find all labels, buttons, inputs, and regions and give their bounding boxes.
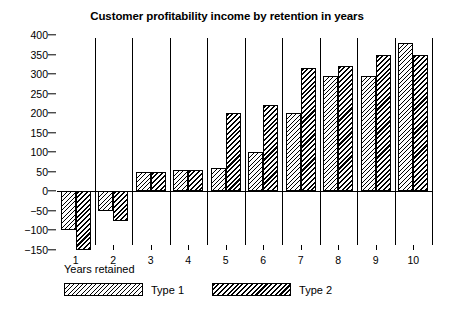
group-separator-line bbox=[282, 38, 283, 245]
group-separator-line bbox=[132, 38, 133, 245]
x-axis-tick-mark bbox=[76, 245, 77, 250]
x-axis-label-10: 10 bbox=[401, 254, 425, 266]
y-axis-tick-label: −100 bbox=[4, 225, 48, 235]
legend-item-type-1: Type 1 bbox=[64, 283, 184, 296]
y-axis-tick-mark bbox=[48, 34, 56, 35]
bar-type-2-year-8 bbox=[338, 66, 353, 191]
y-axis-tick-mark bbox=[48, 210, 56, 211]
bar-type-1-year-5 bbox=[211, 168, 226, 191]
y-axis-tick-label: 400 bbox=[4, 30, 48, 40]
y-axis-tick-mark bbox=[48, 152, 56, 153]
y-axis-tick-mark bbox=[48, 112, 56, 113]
group-separator-line bbox=[170, 38, 171, 245]
x-axis-tick-mark bbox=[188, 245, 189, 250]
y-axis-tick-mark bbox=[48, 230, 56, 231]
legend-swatch-type-2 bbox=[212, 283, 291, 296]
bar-type-1-year-9 bbox=[361, 76, 376, 191]
bar-type-1-year-8 bbox=[323, 76, 338, 191]
y-axis-tick-mark bbox=[48, 93, 56, 94]
x-axis-title: Years retained bbox=[64, 263, 135, 275]
x-axis-label-7: 7 bbox=[289, 254, 313, 266]
group-separator-line bbox=[245, 38, 246, 245]
bar-type-1-year-10 bbox=[398, 43, 413, 192]
legend-swatch-type-1 bbox=[64, 283, 143, 296]
bar-type-1-year-6 bbox=[248, 152, 263, 191]
legend-label-type-1: Type 1 bbox=[151, 284, 184, 296]
x-axis-tick-mark bbox=[376, 245, 377, 250]
x-axis-tick-mark bbox=[263, 245, 264, 250]
y-axis-tick-mark bbox=[48, 191, 56, 192]
y-axis-tick-mark bbox=[48, 132, 56, 133]
bar-type-1-year-3 bbox=[136, 172, 151, 192]
bar-type-2-year-6 bbox=[263, 105, 278, 191]
bar-type-2-year-4 bbox=[188, 170, 203, 192]
y-axis-tick-label: 350 bbox=[4, 50, 48, 60]
x-axis-label-9: 9 bbox=[364, 254, 388, 266]
x-axis-tick-mark bbox=[301, 245, 302, 250]
bar-type-1-year-7 bbox=[286, 113, 301, 191]
y-axis-tick-label: 150 bbox=[4, 128, 48, 138]
chart-legend: Type 1 Type 2 bbox=[64, 283, 332, 296]
bar-type-2-year-9 bbox=[376, 55, 391, 192]
y-axis-tick-label: 250 bbox=[4, 89, 48, 99]
bar-type-1-year-4 bbox=[173, 170, 188, 192]
bar-type-2-year-3 bbox=[151, 172, 166, 192]
y-axis-tick-label: 0 bbox=[4, 186, 48, 196]
x-axis-tick-mark bbox=[226, 245, 227, 250]
group-separator-line bbox=[95, 38, 96, 245]
x-axis-tick-mark bbox=[413, 245, 414, 250]
x-axis-label-6: 6 bbox=[251, 254, 275, 266]
bar-type-1-year-2 bbox=[98, 191, 113, 211]
bar-type-2-year-5 bbox=[226, 113, 241, 191]
legend-label-type-2: Type 2 bbox=[299, 284, 332, 296]
group-separator-line bbox=[320, 38, 321, 245]
y-axis-tick-label: 200 bbox=[4, 108, 48, 118]
y-axis-tick-label: 50 bbox=[4, 167, 48, 177]
y-axis-tick-label: −50 bbox=[4, 206, 48, 216]
chart-container: Customer profitability income by retenti… bbox=[0, 0, 454, 313]
chart-title: Customer profitability income by retenti… bbox=[0, 10, 454, 22]
y-axis-tick-label: 300 bbox=[4, 69, 48, 79]
legend-item-type-2: Type 2 bbox=[212, 283, 332, 296]
bar-type-2-year-7 bbox=[301, 68, 316, 191]
x-axis-label-4: 4 bbox=[176, 254, 200, 266]
bar-type-1-year-1 bbox=[61, 191, 76, 230]
x-axis-tick-mark bbox=[151, 245, 152, 250]
y-axis-tick-mark bbox=[48, 249, 56, 250]
bar-type-2-year-10 bbox=[413, 55, 428, 192]
y-axis-tick-mark bbox=[48, 171, 56, 172]
group-separator-line bbox=[207, 38, 208, 245]
y-axis-tick-mark bbox=[48, 54, 56, 55]
group-separator-line bbox=[432, 38, 433, 245]
bar-type-2-year-1 bbox=[76, 191, 91, 250]
x-axis-label-3: 3 bbox=[139, 254, 163, 266]
group-separator-line bbox=[357, 38, 358, 245]
y-axis-tick-label: 100 bbox=[4, 147, 48, 157]
y-axis-tick-mark bbox=[48, 73, 56, 74]
y-axis-tick-label: −150 bbox=[4, 245, 48, 255]
x-axis-label-5: 5 bbox=[214, 254, 238, 266]
bar-type-2-year-2 bbox=[113, 191, 128, 220]
group-separator-line bbox=[395, 38, 396, 245]
x-axis-label-8: 8 bbox=[326, 254, 350, 266]
x-axis-tick-mark bbox=[113, 245, 114, 250]
plot-area: 400350300250200150100500−50−100−15012345… bbox=[57, 35, 432, 250]
x-axis-tick-mark bbox=[338, 245, 339, 250]
